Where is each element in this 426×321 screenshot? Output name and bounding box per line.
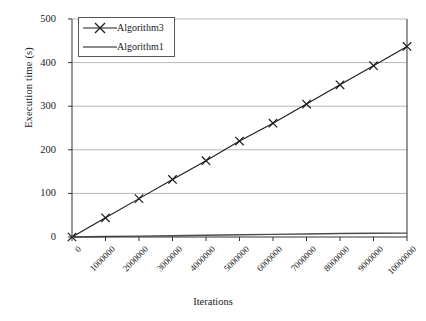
legend-marker-x-icon — [83, 19, 117, 37]
x-axis-title: Iterations — [0, 296, 426, 307]
legend: Algorithm3 Algorithm1 — [78, 17, 175, 57]
x-axis-ticklabels: 0100000020000003000000400000050000006000… — [0, 0, 426, 321]
chart-container: 0100200300400500 Execution time (s) 0100… — [0, 0, 426, 321]
legend-marker-line-icon — [83, 38, 117, 56]
legend-label: Algorithm1 — [117, 42, 164, 52]
legend-item-algorithm3: Algorithm3 — [79, 18, 176, 38]
legend-label: Algorithm3 — [117, 23, 164, 33]
legend-item-algorithm1: Algorithm1 — [79, 37, 176, 57]
